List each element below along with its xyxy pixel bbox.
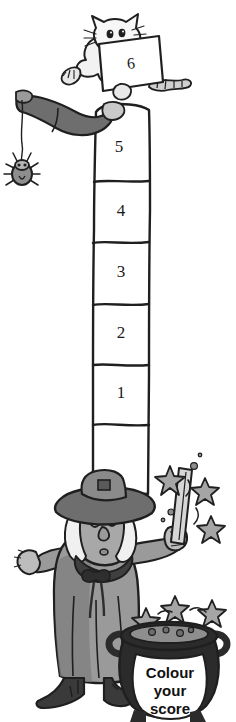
spider-head-icon xyxy=(15,160,29,170)
wizard-bowtie-icon xyxy=(82,570,110,582)
ladder-number-3: 3 xyxy=(117,262,126,281)
star-icon-2 xyxy=(191,478,219,505)
cauldron-text-line-2: your xyxy=(154,682,187,699)
ladder-number-1: 1 xyxy=(117,383,126,402)
sleeve-knot-icon xyxy=(16,90,32,102)
star-icon-6 xyxy=(198,600,226,627)
star-icon-5 xyxy=(161,596,189,623)
ladder-number-4: 4 xyxy=(117,201,126,220)
ladder-number-2: 2 xyxy=(117,323,126,342)
sparkle-dot-1 xyxy=(191,463,198,470)
wizard-mouth-icon xyxy=(100,549,108,555)
cat-paw-left-icon xyxy=(62,67,81,84)
illustration-canvas: 5 4 3 2 1 xyxy=(0,0,236,722)
cat-holding-card: 6 xyxy=(62,14,191,100)
star-icon-3 xyxy=(197,516,225,543)
cauldron-brew xyxy=(130,625,208,643)
cauldron-foot-left-icon xyxy=(130,710,146,722)
cauldron-text-line-1: Colour xyxy=(146,664,194,681)
wizard-nose-icon xyxy=(98,527,109,541)
cauldron-foot-right-icon xyxy=(190,710,206,722)
ladder-body xyxy=(93,104,150,494)
wizard-shoe-left-icon xyxy=(37,678,84,708)
cat-paw-right-icon xyxy=(113,84,131,100)
scene-svg: 5 4 3 2 1 xyxy=(0,0,236,722)
wizard-left-hand-icon xyxy=(17,550,40,574)
score-ladder[interactable]: 5 4 3 2 1 xyxy=(93,104,150,494)
hat-buckle-icon xyxy=(98,480,110,490)
wizard-hand-top-icon xyxy=(102,102,124,120)
sparkle-dot-4 xyxy=(198,453,202,457)
cat-eye-left-icon xyxy=(107,30,114,38)
cat-eye-right-icon xyxy=(119,29,126,37)
cat-score-card[interactable]: 6 xyxy=(99,36,163,91)
cauldron-text-line-3: score xyxy=(150,700,190,717)
sparkle-dot-3 xyxy=(161,518,165,522)
ladder-number-5: 5 xyxy=(115,137,124,156)
cauldron[interactable]: Colour your score xyxy=(109,622,227,722)
sparkle-dot-2 xyxy=(168,509,174,515)
